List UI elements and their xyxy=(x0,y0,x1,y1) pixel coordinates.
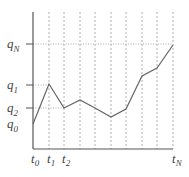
x-label-t0: t0 xyxy=(31,151,40,168)
trajectory-line xyxy=(33,45,173,124)
y-label-q1: q1 xyxy=(7,77,18,95)
vertical-grid-lines xyxy=(49,12,173,149)
axes xyxy=(33,12,173,149)
y-label-q0: q0 xyxy=(7,116,19,134)
y-ticks xyxy=(26,44,33,108)
diagram: qN q1 q2 q0 t0 t1 t2 tN xyxy=(0,0,189,177)
x-label-t2: t2 xyxy=(62,151,71,168)
x-label-t1: t1 xyxy=(47,151,55,168)
y-label-qN: qN xyxy=(7,36,21,54)
horizontal-guides xyxy=(33,44,173,108)
x-label-tN: tN xyxy=(172,151,183,168)
